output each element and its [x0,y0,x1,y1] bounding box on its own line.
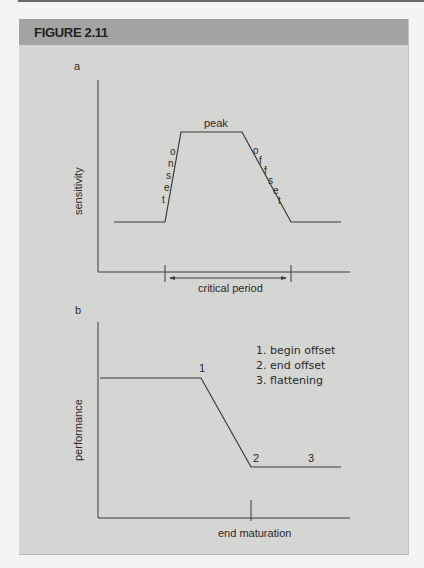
chart-b: b performance 1 2 3 1. begin offset 2. e… [72,304,350,539]
panel-b-label: b [75,304,81,316]
panel-a-label: a [74,60,81,72]
performance-curve [100,378,341,467]
svg-text:f: f [259,155,262,166]
svg-text:e: e [164,182,170,193]
arrow-left-icon [169,276,175,280]
legend-item-2: 2. end offset [256,359,326,372]
arrow-right-icon [281,276,287,280]
y-label-sensitivity: sensitivity [72,167,84,215]
point-3-label: 3 [308,452,314,464]
svg-text:t: t [278,195,281,206]
figure-diagram: a sensitivity peak o n s e t o f f s e t… [0,0,424,568]
critical-period-label: critical period [198,282,263,294]
svg-text:t: t [162,194,165,205]
svg-text:o: o [170,146,176,157]
point-2-label: 2 [253,452,259,464]
y-label-performance: performance [72,399,84,461]
legend-item-3: 3. flattening [256,374,323,387]
peak-label: peak [204,117,228,129]
legend-item-1: 1. begin offset [256,344,336,357]
svg-text:s: s [166,170,171,181]
sensitivity-curve [114,132,341,222]
chart-a: a sensitivity peak o n s e t o f f s e t… [72,60,350,294]
legend: 1. begin offset 2. end offset 3. flatten… [256,344,336,387]
svg-text:n: n [168,158,174,169]
end-maturation-label: end maturation [218,527,291,539]
svg-text:f: f [264,165,267,176]
point-1-label: 1 [199,362,205,374]
